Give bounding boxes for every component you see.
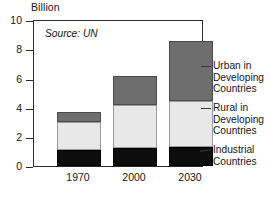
bar-1970-segment-rural-developing [57, 122, 101, 150]
legend-label-urban-developing: Urban in Developing Countries [213, 60, 264, 95]
plot-area: Source: UN [33, 20, 203, 167]
legend-label-rural-line1: Rural in [213, 102, 264, 114]
y-tick-label-10: 10 [2, 14, 22, 26]
legend-label-urban-line1: Urban in [213, 60, 264, 72]
legend-label-rural-line3: Countries [213, 125, 264, 137]
bar-1970-segment-urban-developing [57, 112, 101, 122]
y-tick-label-4: 4 [2, 102, 22, 114]
bar-2000-segment-rural-developing [113, 105, 157, 148]
bar-2030 [169, 41, 213, 166]
y-tick-mark-6 [26, 80, 33, 81]
bar-2000-segment-industrial [113, 148, 157, 166]
legend-leader-line-rural [201, 108, 211, 109]
legend-label-industrial-line2: Countries [213, 156, 257, 168]
bar-1970-segment-industrial [57, 150, 101, 166]
y-tick-label-0: 0 [2, 160, 22, 172]
bar-2030-segment-urban-developing [169, 41, 213, 101]
legend-label-rural-developing: Rural in Developing Countries [213, 102, 264, 137]
y-tick-mark-10 [26, 21, 33, 22]
legend-label-urban-line3: Countries [213, 83, 264, 95]
y-tick-label-2: 2 [2, 131, 22, 143]
source-annotation: Source: UN [45, 28, 98, 39]
y-tick-mark-8 [26, 50, 33, 51]
bar-2000 [113, 76, 157, 166]
y-tick-label-8: 8 [2, 43, 22, 55]
y-tick-mark-4 [26, 109, 33, 110]
legend-leader-line-urban [201, 66, 211, 67]
x-tick-label-1970: 1970 [50, 171, 106, 183]
y-tick-mark-2 [26, 138, 33, 139]
legend-label-industrial-line1: Industrial [213, 144, 257, 156]
y-tick-label-6: 6 [2, 73, 22, 85]
x-tick-label-2030: 2030 [162, 171, 218, 183]
legend-label-urban-line2: Developing [213, 72, 264, 84]
chart-figure: Billion 10 8 6 4 2 0 Source: UN 1970 200… [0, 0, 274, 197]
y-tick-mark-0 [26, 167, 33, 168]
y-axis-unit-label: Billion [31, 1, 60, 13]
legend-label-industrial: Industrial Countries [213, 144, 257, 167]
bar-2000-segment-urban-developing [113, 76, 157, 105]
legend-label-rural-line2: Developing [213, 114, 264, 126]
bar-1970 [57, 112, 101, 166]
x-tick-label-2000: 2000 [106, 171, 162, 183]
